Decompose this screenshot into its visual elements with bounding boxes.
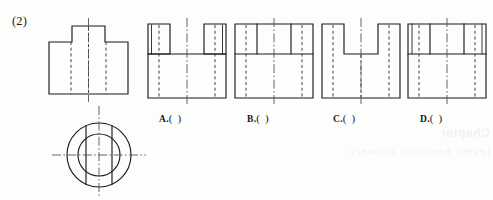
option-c-blank[interactable]: ( ) (343, 112, 356, 124)
option-a-blank[interactable]: ( ) (169, 112, 182, 124)
ghost-line-2: review exercises answers (200, 145, 490, 157)
front-view-t-shape (40, 18, 140, 102)
option-c-figure[interactable] (320, 18, 404, 100)
option-b-figure[interactable] (233, 18, 317, 100)
option-c-label[interactable]: C.( ) (333, 112, 356, 124)
option-b-letter: B. (247, 114, 256, 124)
option-a-letter: A. (159, 114, 169, 124)
option-d-letter: D. (420, 114, 430, 124)
option-b-blank[interactable]: ( ) (256, 112, 269, 124)
page-bleed-through-text: Chapter review exercises answers (200, 126, 490, 196)
question-number: (2) (12, 14, 27, 29)
option-a-figure[interactable] (146, 18, 230, 100)
option-a-label[interactable]: A.( ) (159, 112, 182, 124)
option-b-label[interactable]: B.( ) (247, 112, 270, 124)
ghost-line-1: Chapter (200, 126, 490, 140)
worksheet-page: Chapter review exercises answers (2) (0, 0, 493, 200)
option-c-letter: C. (333, 114, 343, 124)
option-d-blank[interactable]: ( ) (430, 112, 443, 124)
option-d-figure[interactable] (406, 18, 490, 100)
top-view-concentric-circles (58, 114, 140, 196)
option-d-label[interactable]: D.( ) (420, 112, 443, 124)
